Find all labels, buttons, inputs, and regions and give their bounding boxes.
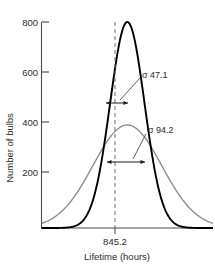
y-axis-title: Number of bulbs bbox=[4, 113, 15, 183]
y-tick-marks bbox=[42, 22, 50, 172]
y-tick-label-800: 800 bbox=[22, 17, 38, 28]
x-axis-title: Lifetime (hours) bbox=[84, 251, 150, 262]
distribution-chart: 800 600 400 200 Number of bulbs 845.2 Li… bbox=[0, 0, 215, 267]
sigma-wide-leader-line bbox=[133, 134, 146, 159]
chart-canvas: 800 600 400 200 Number of bulbs 845.2 Li… bbox=[0, 0, 215, 267]
sigma-narrow-label: σ 47.1 bbox=[142, 70, 168, 80]
y-tick-label-400: 400 bbox=[22, 117, 38, 128]
y-tick-label-600: 600 bbox=[22, 67, 38, 78]
y-tick-label-200: 200 bbox=[22, 167, 38, 178]
sigma-narrow-leader-line bbox=[120, 78, 140, 100]
x-tick-label-center: 845.2 bbox=[103, 236, 127, 247]
sigma-wide-arrowhead-right bbox=[141, 160, 146, 164]
sigma-wide-annotation: σ 94.2 bbox=[107, 125, 174, 164]
sigma-narrow-arrowhead-right bbox=[124, 101, 129, 105]
wide-distribution-curve bbox=[42, 125, 214, 223]
sigma-wide-label: σ 94.2 bbox=[148, 125, 174, 135]
sigma-wide-arrowhead-left bbox=[107, 160, 112, 164]
sigma-narrow-arrowhead-left bbox=[106, 101, 111, 105]
